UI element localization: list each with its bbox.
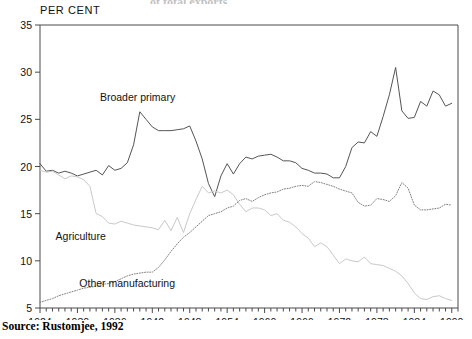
- y-tick-label: 30: [20, 66, 32, 78]
- x-tick-label: 1942: [141, 316, 165, 320]
- y-tick-label: 5: [26, 302, 32, 314]
- source-note: Source: Rustomjee, 1992: [2, 320, 123, 332]
- y-tick-label: 10: [20, 255, 32, 267]
- line-chart: 5101520253035192419301936194219481954196…: [0, 0, 472, 320]
- y-tick-label: 20: [20, 161, 32, 173]
- y-tick-label: 25: [20, 113, 32, 125]
- x-tick-label: 1990: [440, 316, 464, 320]
- x-tick-label: 1960: [253, 316, 277, 320]
- x-tick-label: 1954: [215, 316, 239, 320]
- series-annotation: Broader primary: [100, 91, 176, 103]
- plot-area: 5101520253035192419301936194219481954196…: [20, 19, 463, 320]
- x-tick-label: 1966: [290, 316, 314, 320]
- series-annotation: Other manufacturing: [79, 277, 175, 289]
- x-tick-label: 1948: [178, 316, 202, 320]
- x-tick-label: 1978: [365, 316, 389, 320]
- figure-container: of total exports PER CENT 51015202530351…: [0, 0, 472, 339]
- y-tick-label: 15: [20, 208, 32, 220]
- series-annotation: Agriculture: [56, 230, 106, 242]
- x-tick-label: 1984: [403, 316, 427, 320]
- x-tick-label: 1972: [328, 316, 352, 320]
- series-line-broader-primary: [40, 67, 452, 196]
- y-tick-label: 35: [20, 19, 32, 31]
